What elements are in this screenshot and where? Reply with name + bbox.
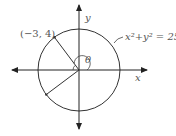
equation-label: x²+y² = 25 (125, 32, 176, 42)
lower-point-marker (45, 93, 47, 95)
y-axis-label: y (85, 13, 91, 23)
point-label: (−3, 4) (20, 29, 55, 39)
radius-lower (46, 70, 79, 95)
theta-label: θ (85, 55, 91, 65)
x-axis-label: x (135, 73, 141, 83)
equation-leader (114, 37, 123, 43)
ref-angle-arc (73, 65, 75, 70)
unit-circle-diagram: (−3, 4) x²+y² = 25 θ x y (0, 0, 176, 136)
